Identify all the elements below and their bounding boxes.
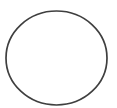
circle-figure: A single thin dark-gray circle outline d… — [0, 0, 117, 108]
image-canvas: A single thin dark-gray circle outline d… — [0, 0, 117, 108]
background-rect — [0, 0, 117, 108]
